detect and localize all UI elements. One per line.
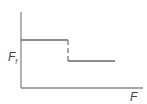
x-axis-label: F — [130, 91, 137, 103]
y-axis-label: Ff — [8, 51, 17, 63]
friction-graph — [0, 0, 147, 104]
